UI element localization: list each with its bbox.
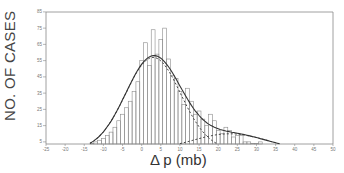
y-tick-label: 75 [37, 26, 43, 31]
histogram-bar [121, 114, 125, 144]
y-tick-label: 65 [37, 42, 43, 47]
x-tick-label: 45 [311, 147, 317, 152]
y-tick-label: 55 [37, 58, 43, 63]
histogram-bar [117, 121, 121, 144]
histogram-bar [163, 28, 167, 144]
histogram-bar [124, 108, 128, 144]
histogram-bar [101, 139, 105, 144]
histogram-bar [220, 134, 224, 144]
histogram-bar [151, 30, 155, 144]
x-tick-label: 25 [235, 147, 241, 152]
y-tick-label: 35 [37, 91, 43, 96]
histogram-bar [212, 121, 216, 144]
x-tick-label: 35 [273, 147, 279, 152]
y-axis-ticks: 51525354555657585 [37, 9, 46, 144]
x-tick-label: 30 [254, 147, 260, 152]
histogram-bar [235, 135, 239, 144]
histogram-bars [90, 28, 262, 144]
x-tick-label: 40 [292, 147, 298, 152]
histogram-bar [216, 131, 220, 145]
y-axis-label: NO. OF CASES [1, 31, 21, 121]
histogram-bar [178, 92, 182, 145]
y-tick-label: 45 [37, 74, 43, 79]
histogram-bar [113, 127, 117, 144]
y-tick-label: 85 [37, 9, 43, 14]
histogram-bar [136, 82, 140, 144]
histogram-bar [155, 54, 159, 144]
histogram-bar [128, 101, 132, 144]
histogram-bar [251, 144, 255, 145]
histogram-bar [140, 61, 144, 144]
histogram-bar [109, 132, 113, 144]
y-tick-label: 25 [37, 107, 43, 112]
x-tick-label: -10 [100, 147, 107, 152]
x-tick-label: -20 [62, 147, 69, 152]
x-tick-label: -15 [81, 147, 88, 152]
histogram-bar [232, 137, 236, 144]
histogram-bar [147, 66, 151, 145]
x-tick-label: -5 [121, 147, 125, 152]
histogram-chart: 51525354555657585 -25-20-15-10-505101520… [0, 0, 344, 173]
histogram-bar [167, 59, 171, 144]
histogram-bar [209, 114, 213, 144]
histogram-bar [132, 92, 136, 145]
x-tick-label: 20 [216, 147, 222, 152]
fitted-curves [90, 56, 279, 144]
histogram-bar [170, 75, 174, 144]
histogram-bar [224, 127, 228, 144]
x-axis-label: Δ p (mb) [150, 151, 207, 168]
histogram-bar [98, 140, 102, 144]
x-tick-label: 50 [330, 147, 336, 152]
histogram-bar [159, 40, 163, 145]
fitted-total-curve [90, 56, 279, 144]
histogram-bar [182, 105, 186, 145]
histogram-bar [255, 144, 259, 145]
x-tick-label: 0 [140, 147, 143, 152]
y-tick-label: 15 [37, 123, 43, 128]
histogram-bar [239, 135, 243, 144]
component-2-dashed-curve [180, 134, 280, 144]
histogram-bar [174, 79, 178, 145]
histogram-bar [105, 135, 109, 144]
x-tick-label: -25 [43, 147, 50, 152]
y-tick-label: 5 [39, 139, 42, 144]
